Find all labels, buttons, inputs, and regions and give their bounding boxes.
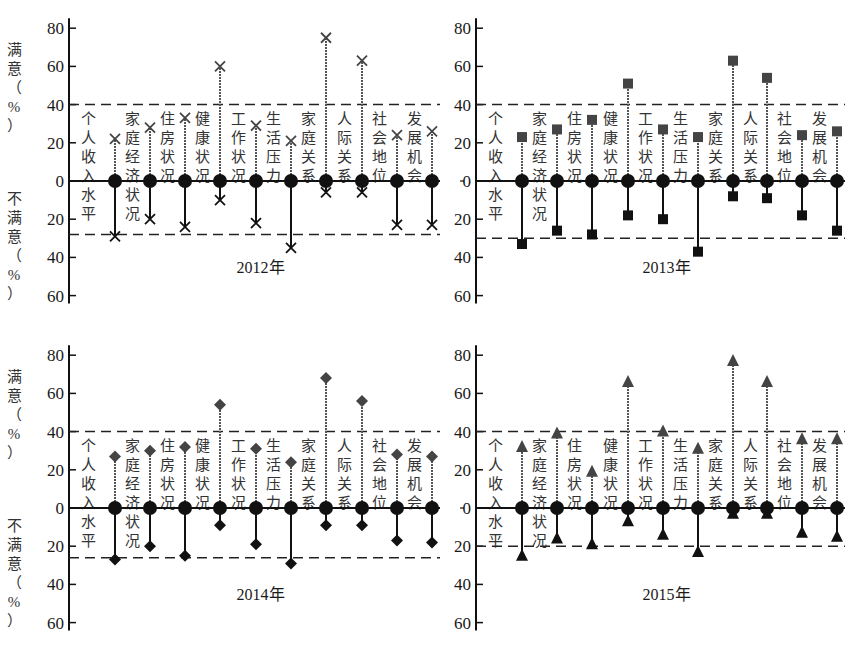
baseline-dot-icon — [108, 174, 122, 188]
dissatisfied-marker-diamond-icon — [109, 554, 121, 566]
y-tick-label: 60 — [454, 57, 471, 76]
dissatisfied-marker-square-icon — [728, 191, 738, 201]
category-label: 人 — [488, 130, 503, 146]
chart-title: 2012年 — [237, 259, 285, 276]
category-label: 庭 — [301, 457, 316, 473]
category-label: 状 — [160, 476, 175, 492]
y-axis-title-satisfied: 意 — [7, 387, 22, 404]
category-label: 活 — [673, 130, 688, 146]
y-tick-label: 40 — [47, 423, 64, 442]
y-axis-title-dissatisfied: （ — [7, 575, 22, 591]
category-label: 水 — [81, 187, 96, 203]
dissatisfied-marker-triangle-icon — [586, 537, 598, 549]
satisfied-marker-square-icon — [623, 79, 633, 89]
category-label: 收 — [488, 149, 503, 165]
chart-title: 2013年 — [643, 259, 691, 276]
dissatisfied-marker-diamond-icon — [426, 536, 438, 548]
satisfied-marker-x-icon — [357, 56, 367, 66]
satisfied-marker-triangle-icon — [622, 375, 634, 387]
category-label: 会 — [372, 457, 387, 473]
baseline-dot-icon — [795, 501, 809, 515]
dissatisfied-marker-triangle-icon — [831, 530, 843, 542]
category-label: 关 — [337, 476, 352, 492]
category-label: 关 — [708, 149, 723, 165]
category-label: 生 — [266, 111, 281, 127]
baseline-dot-icon — [143, 501, 157, 515]
y-tick-label: 20 — [454, 134, 471, 153]
category-label: 发 — [407, 438, 422, 454]
category-label: 平 — [488, 206, 503, 222]
satisfaction-figure: 806040200204060满意（%）不满意（%）个人收入水平家庭经济状况住房… — [0, 0, 855, 658]
y-axis-title-satisfied: （ — [7, 80, 22, 96]
category-label: 状 — [195, 149, 210, 165]
category-label: 际 — [337, 457, 352, 473]
y-tick-label: 60 — [47, 57, 64, 76]
category-label: 际 — [743, 457, 758, 473]
baseline-dot-icon — [515, 501, 529, 515]
category-label: 状 — [125, 514, 140, 530]
satisfied-marker-triangle-icon — [657, 425, 669, 437]
category-label: 况 — [125, 206, 140, 222]
baseline-dot-icon — [178, 501, 192, 515]
category-label: 家 — [708, 438, 723, 454]
y-tick-label: 20 — [454, 537, 471, 556]
y-axis-title-dissatisfied: 不 — [7, 191, 22, 207]
category-label: 生 — [673, 438, 688, 454]
baseline-dot-icon — [319, 501, 333, 515]
category-label: 状 — [567, 149, 582, 165]
category-label: 房 — [567, 457, 582, 473]
satisfied-marker-diamond-icon — [426, 450, 438, 462]
y-tick-label: 40 — [454, 248, 471, 267]
y-tick-label: 20 — [454, 461, 471, 480]
category-label: 状 — [231, 476, 246, 492]
category-label: 社 — [777, 111, 792, 127]
y-axis-title-dissatisfied: 意 — [7, 555, 22, 572]
dissatisfied-marker-diamond-icon — [144, 540, 156, 552]
category-label: 展 — [407, 130, 422, 146]
baseline-dot-icon — [621, 174, 635, 188]
y-axis-title-dissatisfied: % — [8, 594, 21, 610]
category-label: 平 — [81, 206, 96, 222]
satisfied-marker-diamond-icon — [356, 395, 368, 407]
category-label: 地 — [372, 149, 387, 165]
category-label: 生 — [673, 111, 688, 127]
category-label: 状 — [195, 476, 210, 492]
y-axis-title-satisfied: 意 — [7, 60, 22, 77]
baseline-dot-icon — [585, 174, 599, 188]
chart-panel-2015: 806040200204060个人收入水平家庭经济状况住房状况健康状况工作状况生… — [454, 345, 845, 632]
y-axis-title-satisfied: % — [8, 99, 21, 115]
dissatisfied-marker-square-icon — [693, 247, 703, 257]
category-label: 活 — [673, 457, 688, 473]
satisfied-marker-diamond-icon — [320, 372, 332, 384]
category-label: 活 — [266, 130, 281, 146]
satisfied-marker-diamond-icon — [250, 443, 262, 455]
satisfied-marker-square-icon — [832, 126, 842, 136]
satisfied-marker-square-icon — [728, 56, 738, 66]
category-label: 况 — [532, 533, 547, 549]
category-label: 家 — [708, 111, 723, 127]
y-axis-title-dissatisfied: 意 — [7, 228, 22, 245]
chart-panel-2014: 806040200204060满意（%）不满意（%）个人收入水平家庭经济状况住房… — [7, 345, 441, 632]
category-label: 压 — [266, 476, 281, 492]
category-label: 个 — [488, 438, 503, 454]
y-axis-title-satisfied: % — [8, 426, 21, 442]
category-label: 庭 — [301, 130, 316, 146]
category-label: 压 — [673, 476, 688, 492]
baseline-dot-icon — [656, 174, 670, 188]
satisfied-marker-triangle-icon — [727, 354, 739, 366]
category-label: 健 — [195, 438, 210, 454]
category-label: 机 — [407, 476, 422, 492]
category-label: 社 — [777, 438, 792, 454]
baseline-dot-icon — [390, 174, 404, 188]
category-label: 人 — [743, 438, 758, 454]
y-tick-label: 80 — [454, 19, 471, 38]
category-label: 社 — [372, 111, 387, 127]
category-label: 健 — [195, 111, 210, 127]
category-label: 作 — [231, 130, 246, 146]
category-label: 家 — [301, 111, 316, 127]
category-label: 关 — [301, 476, 316, 492]
category-label: 会 — [777, 130, 792, 146]
category-label: 工 — [231, 438, 246, 454]
category-label: 状 — [603, 149, 618, 165]
chart-canvas: 806040200204060满意（%）不满意（%）个人收入水平家庭经济状况住房… — [0, 0, 855, 658]
